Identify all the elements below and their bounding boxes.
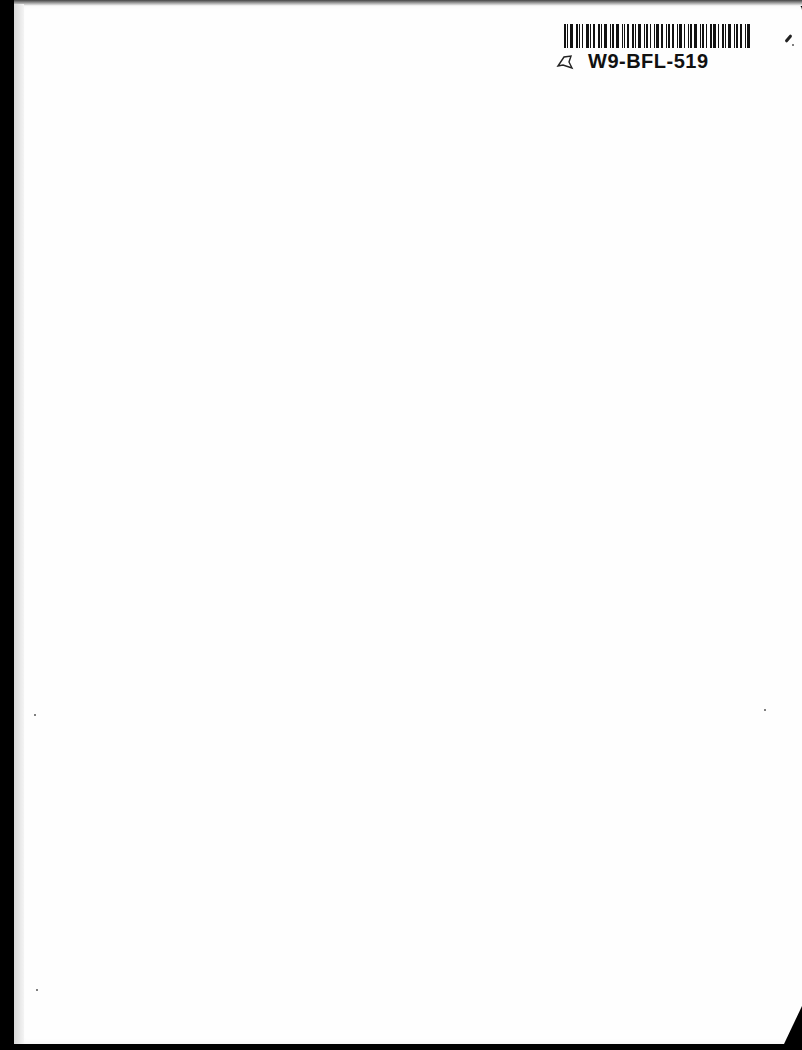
library-barcode-label: W9-BFL-519 — [564, 24, 754, 73]
speck — [792, 44, 794, 46]
flag-icon — [556, 54, 574, 70]
speck — [764, 709, 766, 711]
page-top-edge — [14, 0, 802, 6]
speck — [36, 989, 38, 991]
scanned-page: W9-BFL-519 — [14, 4, 802, 1044]
speck — [34, 714, 36, 716]
stray-pen-mark — [784, 34, 792, 43]
barcode-icon — [564, 24, 754, 48]
folded-corner — [784, 1006, 802, 1044]
page-left-edge — [14, 4, 24, 1044]
barcode-code: W9-BFL-519 — [588, 50, 709, 73]
